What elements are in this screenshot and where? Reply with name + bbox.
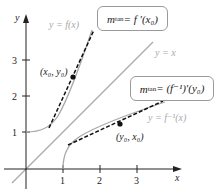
callout-bottom-m: m	[140, 83, 148, 95]
callout-top-m: m	[107, 13, 115, 25]
x-tick-label-1: 1	[60, 175, 65, 186]
x-tick-label-3: 3	[134, 175, 139, 186]
x-axis-label: x	[174, 172, 180, 183]
callout-slope-f: mtan = f ′(x₀)	[97, 6, 168, 31]
y-tick-label-1: 1	[12, 127, 17, 138]
f-curve-label: y = f(x)	[48, 19, 80, 31]
point-x0-y0	[70, 74, 75, 79]
callout-bottom-rhs: = (f⁻¹)′(y₀)	[156, 82, 204, 95]
callout-top-rhs: = f ′(x₀)	[124, 13, 158, 25]
identity-line-label: y = x	[154, 47, 176, 58]
y-tick-label-3: 3	[12, 55, 17, 66]
y-tick-label-2: 2	[12, 91, 17, 102]
callout-slope-finv: mtan = (f⁻¹)′(y₀)	[130, 76, 214, 101]
callout-top-sub: tan	[115, 15, 124, 23]
point-y0-x0	[117, 121, 122, 126]
callout-bottom-sub: tan	[148, 85, 157, 93]
y-axis-arrow-icon	[23, 14, 29, 23]
x-tick-label-2: 2	[97, 175, 102, 186]
point-label-x0-y0: (x₀, y₀)	[40, 66, 68, 78]
y-axis-label: y	[14, 12, 20, 23]
identity-line	[12, 42, 153, 183]
finv-curve-label: y = f⁻¹(x)	[147, 112, 187, 124]
point-label-y0-x0: (y₀, x₀)	[116, 131, 144, 143]
f-curve	[26, 30, 92, 132]
